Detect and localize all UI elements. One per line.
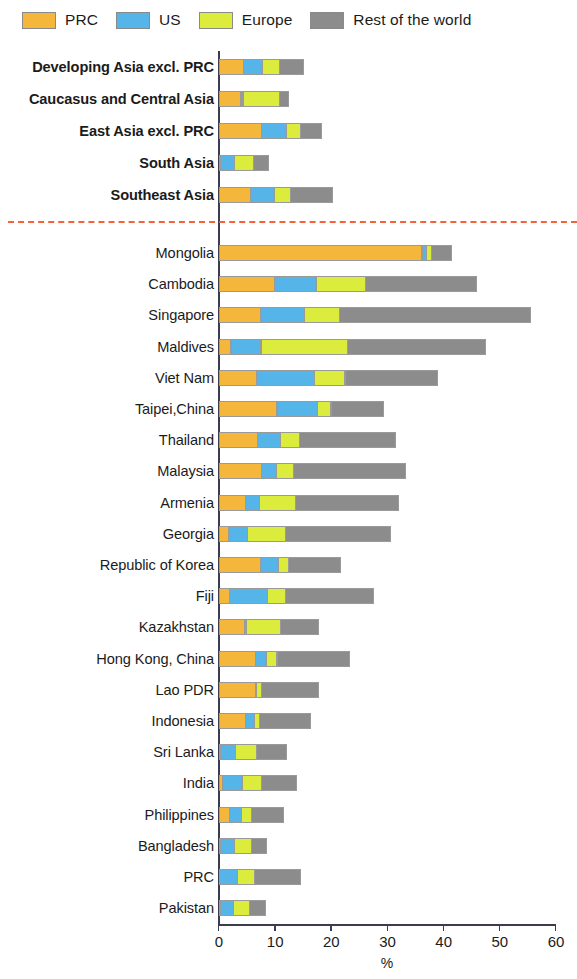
bar-segment [251, 838, 267, 854]
bar-segment [280, 432, 300, 448]
bar-row: India [0, 770, 577, 796]
stacked-bar [219, 401, 384, 417]
x-tick-label: 0 [199, 933, 239, 950]
bar-segment [219, 463, 262, 479]
bar-row-label: Indonesia [152, 708, 214, 734]
bar-segment [293, 463, 406, 479]
legend-label: Rest of the world [353, 11, 471, 29]
stacked-bar [219, 557, 341, 573]
stacked-bar [219, 744, 287, 760]
bar-segment [219, 307, 261, 323]
stacked-bar [219, 59, 304, 75]
bar-row: Indonesia [0, 708, 577, 734]
bar-segment [247, 526, 286, 542]
bar-segment [274, 276, 317, 292]
x-tick-mark [443, 924, 444, 931]
bar-row-label: Hong Kong, China [96, 646, 214, 672]
bar-segment [220, 838, 235, 854]
bar-row: Armenia [0, 490, 577, 516]
bar-segment [219, 619, 245, 635]
stacked-bar [219, 245, 452, 261]
bar-segment [279, 91, 289, 107]
bar-segment [231, 339, 262, 355]
stacked-bar [219, 588, 374, 604]
bar-segment [250, 187, 274, 203]
bar-row: Singapore [0, 302, 577, 328]
bar-row-label: Developing Asia excl. PRC [32, 54, 214, 80]
bar-segment [347, 339, 486, 355]
bar-segment [260, 307, 305, 323]
x-tick-label: 10 [255, 933, 295, 950]
bar-segment [219, 123, 262, 139]
bar-segment [285, 526, 391, 542]
legend-swatch-row [310, 12, 344, 29]
bar-segment [339, 307, 531, 323]
bar-segment [249, 900, 266, 916]
chart-legend: PRCUSEuropeRest of the world [0, 0, 577, 40]
x-tick-label: 40 [424, 933, 464, 950]
bar-row-label: PRC [183, 864, 214, 890]
bar-segment [242, 775, 262, 791]
legend-item: PRC [22, 11, 98, 29]
stacked-bar [219, 775, 297, 791]
bar-segment [243, 59, 263, 75]
bar-segment [256, 370, 314, 386]
bar-segment [220, 155, 235, 171]
bar-segment [267, 588, 286, 604]
bar-segment [259, 495, 296, 511]
bar-row: East Asia excl. PRC [0, 118, 577, 144]
bar-row-label: Kazakhstan [139, 614, 214, 640]
bar-row: Pakistan [0, 895, 577, 921]
bar-segment [295, 495, 398, 511]
bar-row: Cambodia [0, 271, 577, 297]
bar-segment [431, 245, 452, 261]
bar-row: Viet Nam [0, 365, 577, 391]
stacked-bar [219, 155, 269, 171]
bar-segment [314, 370, 345, 386]
stacked-bar [219, 713, 311, 729]
bar-segment [261, 123, 287, 139]
bar-segment [259, 713, 311, 729]
stacked-bar [219, 432, 396, 448]
x-tick-mark [555, 924, 556, 931]
bar-segment [219, 869, 238, 885]
bar-row-label: South Asia [139, 150, 214, 176]
stacked-bar [219, 339, 486, 355]
x-tick-mark [330, 924, 331, 931]
stacked-bar [219, 838, 267, 854]
bar-row-label: Maldives [157, 334, 214, 360]
bar-segment [229, 807, 241, 823]
bar-segment [261, 339, 349, 355]
bar-row-label: Armenia [160, 490, 214, 516]
bar-segment [219, 59, 244, 75]
legend-item: Europe [199, 11, 293, 29]
bar-segment [219, 557, 261, 573]
bar-segment [251, 807, 284, 823]
bar-row-label: Southeast Asia [111, 182, 215, 208]
x-tick-label: 30 [368, 933, 408, 950]
x-tick-mark [218, 924, 219, 931]
bar-row-label: Taipei,China [135, 396, 214, 422]
bar-segment [245, 495, 260, 511]
legend-label: US [159, 11, 181, 29]
bar-row: Lao PDR [0, 677, 577, 703]
bar-row: Thailand [0, 427, 577, 453]
bar-row: PRC [0, 864, 577, 890]
bar-segment [300, 123, 322, 139]
bar-row-label: Thailand [159, 427, 214, 453]
bar-row: Taipei,China [0, 396, 577, 422]
bar-row-label: Pakistan [159, 895, 214, 921]
bar-row: Developing Asia excl. PRC [0, 54, 577, 80]
bar-row-label: Caucasus and Central Asia [29, 86, 214, 112]
bar-row: Caucasus and Central Asia [0, 86, 577, 112]
legend-label: PRC [65, 11, 98, 29]
bar-row: Philippines [0, 802, 577, 828]
group-divider [8, 221, 577, 223]
bar-row-label: Singapore [148, 302, 214, 328]
bar-row-label: Fiji [196, 583, 214, 609]
bar-segment [260, 557, 279, 573]
stacked-bar [219, 495, 399, 511]
bar-segment [277, 651, 350, 667]
bar-row: South Asia [0, 150, 577, 176]
legend-item: US [116, 11, 181, 29]
